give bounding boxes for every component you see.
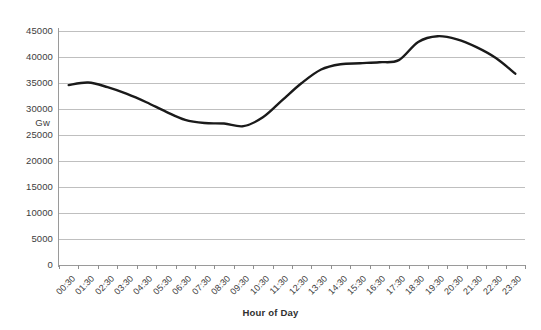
line-chart: Gw 0500010000150002000025000300003500040…: [0, 0, 541, 330]
x-axis-tick-labels: 00:3001:3002:3003:3004:3005:3006:3007:30…: [0, 0, 541, 330]
x-axis-title: Hour of Day: [0, 307, 541, 318]
